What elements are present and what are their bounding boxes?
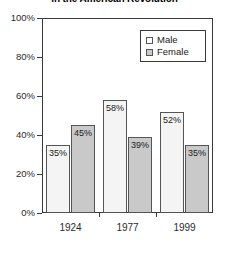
y-axis-tick-mark <box>37 213 42 214</box>
bar-value-label: 39% <box>129 141 151 150</box>
legend-item-female: Female <box>146 46 201 58</box>
bar-1924-female: 45% <box>71 125 95 213</box>
bar-1999-male: 52% <box>160 112 184 213</box>
bar-chart: in the American Revolution 0%20%40%60%80… <box>0 0 229 254</box>
bar-value-label: 35% <box>186 149 208 158</box>
bar-1977-female: 39% <box>128 137 152 213</box>
y-axis-tick-label: 20% <box>16 169 35 179</box>
bar-value-label: 45% <box>72 129 94 138</box>
legend-label-male: Male <box>157 35 178 45</box>
bar-1977-male: 58% <box>103 100 127 213</box>
x-axis-tick-mark <box>99 213 100 217</box>
legend-swatch-male-icon <box>146 37 153 44</box>
x-axis-tick-mark <box>156 213 157 217</box>
y-axis-tick-label: 0% <box>21 208 35 218</box>
x-axis-tick-label: 1999 <box>155 222 215 233</box>
x-axis-tick-label: 1924 <box>41 222 101 233</box>
y-axis-tick-label: 60% <box>16 91 35 101</box>
legend-swatch-female-icon <box>146 49 153 56</box>
chart-legend: Male Female <box>140 30 206 62</box>
x-axis-tick-label: 1977 <box>98 222 158 233</box>
bar-value-label: 58% <box>104 104 126 113</box>
y-axis-tick-label: 40% <box>16 130 35 140</box>
legend-label-female: Female <box>157 47 189 57</box>
bar-1924-male: 35% <box>46 145 70 213</box>
y-axis-tick-label: 100% <box>11 13 35 23</box>
legend-item-male: Male <box>146 34 201 46</box>
x-axis: 192419771999 <box>42 222 213 240</box>
bar-value-label: 35% <box>47 149 69 158</box>
y-axis-tick-label: 80% <box>16 52 35 62</box>
bar-1999-female: 35% <box>185 145 209 213</box>
y-axis: 0%20%40%60%80%100% <box>0 0 42 254</box>
bar-value-label: 52% <box>161 116 183 125</box>
